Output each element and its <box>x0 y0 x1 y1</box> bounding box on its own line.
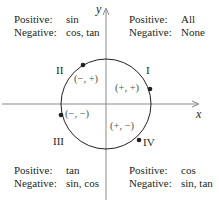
positive-functions: sin <box>66 13 79 25</box>
quadrant-1-sign: (+, +) <box>115 82 139 93</box>
quadrant-1-label: Positive:All Negative:None <box>129 13 205 39</box>
positive-key: Positive: <box>14 13 66 26</box>
positive-functions: tan <box>66 164 79 176</box>
negative-key: Negative: <box>14 26 66 39</box>
negative-key: Negative: <box>129 177 181 190</box>
quadrant-2-sign: (−, +) <box>74 73 98 84</box>
negative-key: Negative: <box>14 177 66 190</box>
x-axis-label: x <box>196 107 201 122</box>
point-quadrant-2 <box>81 63 86 68</box>
quadrant-1-numeral: I <box>146 64 150 76</box>
negative-functions: cos, tan <box>66 26 100 38</box>
quadrant-4-label: Positive:cos Negative:sin, tan <box>129 164 213 190</box>
point-quadrant-3 <box>59 113 64 118</box>
positive-functions: All <box>181 13 195 25</box>
quadrant-3-sign: (−, −) <box>65 108 89 119</box>
negative-functions: sin, cos <box>66 177 99 189</box>
quadrant-2-numeral: II <box>56 64 63 76</box>
negative-functions: sin, tan <box>181 177 213 189</box>
point-quadrant-4 <box>137 138 142 143</box>
quadrant-3-numeral: III <box>53 135 64 147</box>
quadrant-2-label: Positive:sin Negative:cos, tan <box>14 13 100 39</box>
negative-functions: None <box>181 26 205 38</box>
positive-key: Positive: <box>129 13 181 26</box>
negative-key: Negative: <box>129 26 181 39</box>
positive-key: Positive: <box>129 164 181 177</box>
quadrant-4-sign: (+, −) <box>110 120 134 131</box>
positive-functions: cos <box>181 164 196 176</box>
quadrant-4-numeral: IV <box>143 136 155 148</box>
quadrant-3-label: Positive:tan Negative:sin, cos <box>14 164 99 190</box>
point-quadrant-1 <box>148 87 153 92</box>
positive-key: Positive: <box>14 164 66 177</box>
